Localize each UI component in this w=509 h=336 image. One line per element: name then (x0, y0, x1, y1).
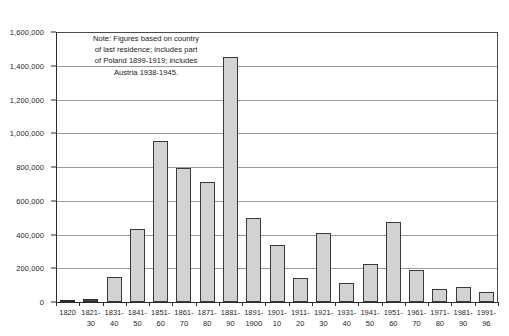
bar (246, 218, 261, 302)
y-tick-label: 400,000 (16, 230, 44, 239)
x-tick-mark (265, 302, 266, 306)
note-line: of last residence; includes part (58, 44, 234, 55)
y-tick-label: 1,400,000 (10, 61, 44, 70)
bar (386, 222, 401, 302)
x-tick-mark (196, 302, 197, 306)
x-tick-mark (428, 302, 429, 306)
x-tick-mark (242, 302, 243, 306)
y-tick-label: 800,000 (16, 163, 44, 172)
bar (270, 245, 285, 302)
bar (153, 141, 168, 302)
note-line: Note: Figures based on country (58, 33, 234, 44)
x-tick-mark (312, 302, 313, 306)
bar (409, 270, 424, 302)
bar (200, 182, 215, 302)
x-tick-mark (335, 302, 336, 306)
x-tick-mark (172, 302, 173, 306)
bar (176, 168, 191, 302)
x-tick-label: 1991- 96 (473, 308, 500, 329)
y-tick-label: 1,600,000 (10, 28, 44, 37)
chart-note: Note: Figures based on countryof last re… (58, 33, 234, 78)
bar (130, 229, 145, 302)
note-line: of Poland 1899-1919; includes (58, 55, 234, 66)
x-tick-mark (103, 302, 104, 306)
y-tick-label: 1,000,000 (10, 129, 44, 138)
bar (432, 289, 447, 302)
x-tick-mark (126, 302, 127, 306)
bar (479, 292, 494, 302)
bar (339, 283, 354, 302)
bar (363, 264, 378, 302)
x-tick-mark (79, 302, 80, 306)
x-tick-mark (56, 302, 57, 306)
bar (456, 287, 471, 302)
y-tick-label: 600,000 (16, 196, 44, 205)
note-line: Austria 1938-1945. (58, 67, 234, 78)
y-tick-label: 0 (40, 298, 44, 307)
x-tick-mark (358, 302, 359, 306)
x-tick-mark (219, 302, 220, 306)
x-tick-mark (405, 302, 406, 306)
x-axis-ticks (56, 302, 498, 307)
bar (293, 278, 308, 302)
bar (107, 277, 122, 302)
bar (223, 57, 238, 302)
y-tick-label: 1,200,000 (10, 95, 44, 104)
y-tick-label: 200,000 (16, 264, 44, 273)
x-tick-mark (498, 302, 499, 306)
x-axis-labels: 18201821- 301831- 401841- 501851- 601861… (56, 308, 498, 334)
x-tick-mark (382, 302, 383, 306)
immigration-bar-chart: 0200,000400,000600,000800,0001,000,0001,… (0, 0, 509, 336)
bar (316, 233, 331, 302)
x-tick-mark (289, 302, 290, 306)
x-tick-mark (149, 302, 150, 306)
y-axis-labels: 0200,000400,000600,000800,0001,000,0001,… (0, 32, 52, 302)
x-tick-mark (451, 302, 452, 306)
x-tick-mark (475, 302, 476, 306)
